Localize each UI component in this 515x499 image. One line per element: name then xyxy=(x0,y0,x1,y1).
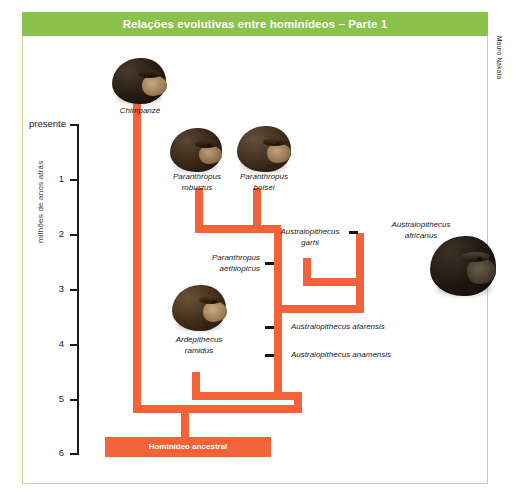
axis-vertical-line xyxy=(77,124,79,455)
ancestor-label: Hominídeo ancestral xyxy=(105,437,271,457)
axis-tick-3 xyxy=(70,289,77,291)
australopithecus-africanus-illustration xyxy=(430,236,496,296)
taxon-label-paranthropus-boisei: Paranthropus boisei xyxy=(226,172,302,193)
axis-tick-6 xyxy=(70,453,77,455)
taxon-label-chimpanze: Chimpanzé xyxy=(104,106,176,117)
branch-boisei-stem xyxy=(253,188,261,230)
branch-paranthropus-split-horizontal xyxy=(195,225,261,233)
axis-tick-4 xyxy=(70,344,77,346)
page-title: Relações evolutivas entre hominídeos – P… xyxy=(22,12,488,36)
node-mark-aethiopicus xyxy=(265,262,274,265)
axis-tick-2 xyxy=(70,234,77,236)
taxon-label-australopithecus-anamensis: Australopithecus anamensis xyxy=(291,350,451,361)
branch-ardipithecus-split xyxy=(192,392,302,400)
taxon-label-paranthropus-robustus: Paranthropus robustus xyxy=(159,172,235,193)
taxon-label-paranthropus-aethiopicus: Paranthropus aethiopicus xyxy=(150,253,260,274)
branch-australopith-split-horizontal xyxy=(274,305,364,313)
axis-tick-presente xyxy=(70,124,77,126)
axis-tick-label-4: 4 xyxy=(8,338,64,349)
branch-ardipithecus-stem xyxy=(192,372,200,396)
paranthropus-robustus-illustration xyxy=(170,128,222,172)
figure-page: Relações evolutivas entre hominídeos – P… xyxy=(0,0,515,499)
branch-garhi-stem xyxy=(303,258,311,282)
chimpanze-illustration xyxy=(112,58,166,104)
figure-title-bar: Relações evolutivas entre hominídeos – P… xyxy=(22,12,488,36)
taxon-label-ardipithecus-ramidus: Ardepithecus ramidus xyxy=(160,335,238,356)
branch-garhi-africanus-horizontal xyxy=(303,278,364,286)
branch-basal-horizontal xyxy=(133,405,302,413)
axis-title: milhões de anos atrás xyxy=(36,161,45,243)
taxon-label-australopithecus-africanus: Australopithecus africanus xyxy=(378,220,464,241)
axis-tick-label-presente: presente xyxy=(8,118,66,129)
branch-chimpanze-trunk xyxy=(133,104,141,410)
branch-main-hominin-trunk xyxy=(274,305,282,400)
taxon-label-australopithecus-afarensis: Australopithecus afarensis xyxy=(291,322,451,333)
branch-robustus-stem xyxy=(195,188,203,230)
taxon-label-australopithecus-garhi: Australopithecus garhi xyxy=(268,227,352,248)
branch-africanus-stem xyxy=(356,233,364,311)
credit-text: Mauro Nakata xyxy=(489,36,503,126)
node-mark-afarensis xyxy=(265,326,274,329)
axis-tick-label-6: 6 xyxy=(8,447,64,458)
paranthropus-boisei-illustration xyxy=(237,126,291,172)
axis-tick-label-3: 3 xyxy=(8,283,64,294)
axis-tick-5 xyxy=(70,399,77,401)
axis-tick-1 xyxy=(70,179,77,181)
figure-frame xyxy=(22,12,488,484)
axis-tick-label-5: 5 xyxy=(8,393,64,404)
node-mark-anamensis xyxy=(265,354,274,357)
ardipithecus-illustration xyxy=(172,285,226,331)
ancestor-box: Hominídeo ancestral xyxy=(105,437,271,457)
